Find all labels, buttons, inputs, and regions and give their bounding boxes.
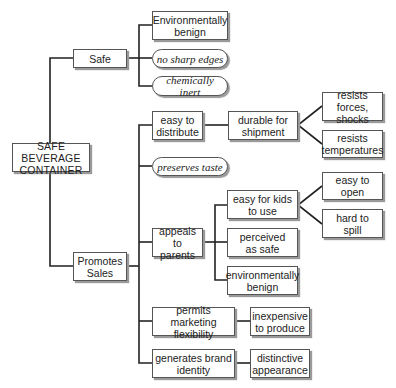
node-environmentally-benign-safe: Environmentally benign bbox=[152, 11, 228, 40]
node-hard-to-spill: hard to spill bbox=[322, 209, 383, 238]
node-inexpensive-to-produce: inexpensive to produce bbox=[250, 307, 310, 336]
node-permits-marketing-flexibility: permits marketing flexibility bbox=[152, 307, 235, 336]
tree-diagram: SAFE BEVERAGE CONTAINER Safe Promotes Sa… bbox=[0, 0, 396, 388]
node-safe-beverage-container: SAFE BEVERAGE CONTAINER bbox=[12, 143, 90, 172]
node-distinctive-appearance: distinctive appearance bbox=[250, 349, 310, 378]
node-easy-for-kids-to-use: easy for kids to use bbox=[227, 190, 298, 219]
node-chemically-inert: chemically inert bbox=[152, 76, 228, 96]
node-perceived-as-safe: perceived as safe bbox=[227, 228, 298, 257]
node-easy-to-distribute: easy to distribute bbox=[152, 111, 203, 140]
node-safe: Safe bbox=[73, 49, 127, 68]
node-durable-for-shipment: durable for shipment bbox=[228, 111, 298, 140]
node-promotes-sales: Promotes Sales bbox=[73, 252, 127, 281]
node-resists-temperatures: resists temperatures bbox=[322, 130, 383, 158]
node-easy-to-open: easy to open bbox=[322, 172, 383, 200]
node-no-sharp-edges: no sharp edges bbox=[152, 49, 228, 68]
node-appeals-to-parents: appeals to parents bbox=[152, 228, 203, 257]
node-resists-forces-shocks: resists forces, shocks bbox=[322, 92, 383, 121]
node-environmentally-benign-parents: environmentally benign bbox=[227, 266, 298, 295]
node-preserves-taste: preserves taste bbox=[152, 157, 228, 176]
node-generates-brand-identity: generates brand identity bbox=[152, 349, 235, 378]
